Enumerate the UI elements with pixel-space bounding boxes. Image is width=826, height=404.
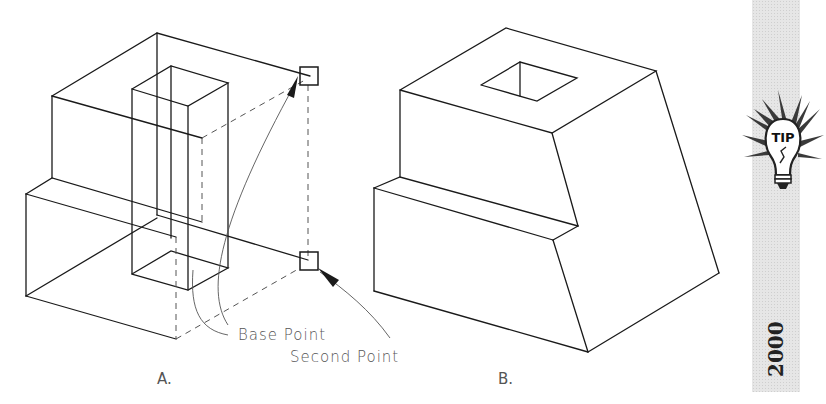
year-label: 2000 xyxy=(764,337,788,377)
figure-b-solid xyxy=(374,28,719,352)
base-point-label: Base Point xyxy=(238,326,326,344)
base-point-marker xyxy=(300,252,318,270)
lightbulb-tip-icon: TIP xyxy=(740,85,826,195)
second-point-arrowhead xyxy=(287,76,298,98)
tip-label: TIP xyxy=(771,130,794,145)
panel-b-label: B. xyxy=(498,370,513,388)
figure-a-wireframe xyxy=(26,33,310,339)
base-point-curve xyxy=(192,270,228,335)
second-point-leader xyxy=(218,84,295,325)
panel-a-label: A. xyxy=(157,370,172,388)
figure-canvas: Base Point Second Point A. B. xyxy=(0,0,826,404)
second-point-label: Second Point xyxy=(290,348,399,366)
